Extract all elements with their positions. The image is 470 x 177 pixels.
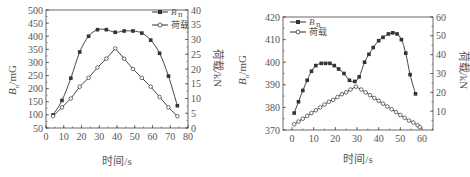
data-point (96, 28, 100, 32)
data-point (414, 92, 418, 96)
left-legend: B n 荷载 (152, 7, 189, 30)
data-point (297, 120, 301, 124)
data-point (336, 95, 340, 99)
legend-bn-label: B (309, 17, 315, 27)
left-chart: 50100150200250300350400450500 0510152025… (6, 5, 224, 168)
y-tick-label: 300 (28, 57, 43, 68)
data-point (323, 103, 327, 107)
data-point (332, 64, 336, 68)
data-point (381, 102, 385, 106)
data-point (363, 60, 367, 64)
y-tick-label: 150 (28, 96, 43, 107)
data-point (305, 114, 309, 118)
open-circle-marker-icon (158, 23, 162, 27)
data-point (105, 28, 109, 32)
x-tick-label: 20 (77, 131, 87, 142)
data-point (412, 121, 416, 125)
data-point (371, 46, 375, 50)
x-tick-label: 50 (395, 133, 405, 144)
data-point (140, 76, 144, 80)
data-point (407, 119, 411, 123)
data-point (390, 107, 394, 111)
y2-tick-label: 15 (191, 78, 201, 89)
y-tick-label: 350 (28, 44, 43, 55)
data-point (360, 88, 364, 92)
figure: 50100150200250300350400450500 0510152025… (0, 0, 470, 177)
data-point (78, 85, 82, 89)
data-point (105, 57, 109, 61)
x-tick-label: 50 (130, 131, 140, 142)
data-point (353, 80, 357, 84)
legend-bn-label: B (171, 7, 177, 17)
data-point (314, 64, 318, 68)
x-tick-label: 20 (330, 133, 340, 144)
data-point (158, 51, 162, 55)
data-point (310, 69, 314, 73)
data-point (348, 78, 352, 82)
y2-tick-label: 5 (191, 108, 196, 119)
y2-tick-label: 10 (436, 106, 446, 117)
data-point (403, 116, 407, 120)
data-point (131, 29, 135, 33)
data-point (395, 32, 399, 36)
y2-tick-label: 40 (191, 5, 201, 16)
x-tick-label: 10 (59, 131, 69, 142)
y2-tick-label: 20 (191, 64, 201, 75)
y2-tick-label: 20 (436, 87, 446, 98)
y-tick-label: 420 (265, 12, 280, 23)
right-y-axis-title: Bn/mG (236, 55, 251, 85)
left-plot-frame (46, 10, 188, 128)
data-point (305, 78, 309, 82)
y-tick-label: 410 (265, 34, 280, 45)
x-tick-label: 10 (309, 133, 319, 144)
data-point (301, 117, 305, 121)
data-point (408, 73, 412, 77)
data-point (386, 105, 390, 109)
data-point (78, 50, 82, 54)
series-line (294, 87, 420, 127)
x-tick-label: 60 (148, 131, 158, 142)
data-point (140, 31, 144, 35)
y-tick-label: 400 (28, 31, 43, 42)
x-tick-label: 0 (44, 131, 49, 142)
series-line (53, 48, 177, 116)
data-point (337, 67, 341, 71)
data-point (158, 95, 162, 99)
data-point (404, 51, 408, 55)
data-point (357, 75, 361, 79)
y2-tick-label: 10 (191, 93, 201, 104)
left-x-axis: 01020304050607080 (44, 125, 194, 142)
data-point (87, 34, 91, 38)
y-tick-label: 100 (28, 109, 43, 120)
x-tick-label: 80 (183, 131, 193, 142)
data-point (314, 108, 318, 112)
y2-tick-label: 35 (191, 19, 201, 30)
data-point (297, 100, 301, 104)
data-point (301, 89, 305, 93)
y2-tick-label: 30 (436, 68, 446, 79)
data-point (113, 47, 117, 51)
data-point (344, 91, 348, 95)
data-point (51, 114, 55, 118)
data-point (418, 125, 422, 129)
data-point (69, 97, 73, 101)
data-point (368, 93, 372, 97)
right-legend: B n 荷载 (290, 17, 327, 37)
data-point (342, 72, 346, 76)
data-point (399, 113, 403, 117)
data-point (349, 88, 353, 92)
data-point (149, 38, 153, 42)
data-point (331, 98, 335, 102)
filled-square-marker-icon (296, 20, 300, 24)
data-point (122, 57, 126, 61)
x-tick-label: 70 (165, 131, 175, 142)
data-point (367, 52, 371, 56)
data-point (391, 31, 395, 35)
y-tick-label: 50 (33, 123, 43, 134)
y-tick-label: 370 (265, 125, 280, 136)
y-tick-label: 200 (28, 83, 43, 94)
right-series (292, 31, 421, 129)
data-point (340, 92, 344, 96)
data-point (324, 62, 328, 66)
left-y2-axis-title: 荷载/kN (212, 49, 224, 88)
